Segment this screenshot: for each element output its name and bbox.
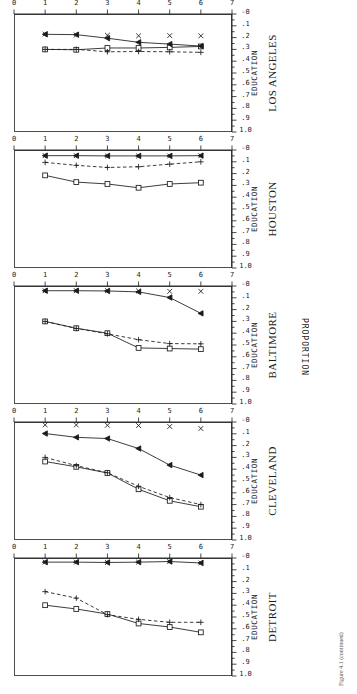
svg-text:.7: .7 — [241, 227, 249, 235]
svg-text:.8: .8 — [241, 238, 249, 246]
panel-baltimore: -0.1.2.3.4.5.6.7.8.91.001234567 EDUCATIO… — [14, 286, 276, 404]
svg-text:.6: .6 — [241, 79, 249, 87]
svg-text:2: 2 — [74, 0, 78, 7]
svg-text:-0: -0 — [241, 416, 249, 424]
panel-title: DETROIT — [266, 558, 278, 676]
svg-text:.3: .3 — [241, 451, 249, 459]
svg-text:3: 3 — [105, 135, 109, 143]
svg-text:.6: .6 — [241, 487, 249, 495]
svg-text:2: 2 — [74, 135, 78, 143]
svg-text:3: 3 — [105, 271, 109, 279]
svg-text:4: 4 — [136, 0, 140, 7]
x-axis-label: EDUCATION — [250, 422, 259, 540]
svg-text:7: 7 — [230, 0, 234, 7]
x-axis-label: EDUCATION — [250, 14, 259, 132]
svg-text:3: 3 — [105, 0, 109, 7]
svg-text:-0: -0 — [241, 144, 249, 152]
svg-text:.6: .6 — [241, 215, 249, 223]
svg-text:7: 7 — [230, 407, 234, 415]
x-axis-label: EDUCATION — [250, 286, 259, 404]
svg-text:.1: .1 — [241, 292, 249, 300]
svg-text:0: 0 — [12, 543, 16, 551]
svg-text:.2: .2 — [241, 304, 249, 312]
x-axis-label: EDUCATION — [250, 558, 259, 676]
svg-text:.6: .6 — [241, 623, 249, 631]
svg-text:0: 0 — [12, 271, 16, 279]
svg-text:4: 4 — [136, 407, 140, 415]
panel-los-angeles: -0.1.2.3.4.5.6.7.8.91.001234567 EDUCATIO… — [14, 14, 276, 132]
panel-title: BALTIMORE — [266, 286, 278, 404]
svg-text:4: 4 — [136, 271, 140, 279]
rotated-figure-wrapper: -0.1.2.3.4.5.6.7.8.91.001234567 EDUCATIO… — [0, 0, 357, 694]
svg-text:.3: .3 — [241, 43, 249, 51]
svg-text:.5: .5 — [241, 339, 249, 347]
svg-text:.4: .4 — [241, 327, 249, 335]
svg-text:.7: .7 — [241, 499, 249, 507]
svg-text:.8: .8 — [241, 646, 249, 654]
panel-houston: -0.1.2.3.4.5.6.7.8.91.001234567 EDUCATIO… — [14, 150, 276, 268]
plot-area: -0.1.2.3.4.5.6.7.8.91.001234567 — [14, 150, 246, 268]
svg-text:.4: .4 — [241, 463, 249, 471]
svg-text:7: 7 — [230, 543, 234, 551]
svg-text:7: 7 — [230, 271, 234, 279]
panel-title: HOUSTON — [266, 150, 278, 268]
svg-text:0: 0 — [12, 135, 16, 143]
svg-text:1: 1 — [43, 271, 47, 279]
svg-text:.8: .8 — [241, 374, 249, 382]
svg-text:.9: .9 — [241, 114, 249, 122]
svg-text:6: 6 — [199, 135, 203, 143]
svg-text:1: 1 — [43, 407, 47, 415]
svg-text:5: 5 — [168, 0, 172, 7]
x-axis-label: EDUCATION — [250, 150, 259, 268]
svg-text:.9: .9 — [241, 658, 249, 666]
panel-cleveland: -0.1.2.3.4.5.6.7.8.91.001234567 EDUCATIO… — [14, 422, 276, 540]
svg-text:0: 0 — [12, 0, 16, 7]
svg-text:6: 6 — [199, 271, 203, 279]
plot-area: -0.1.2.3.4.5.6.7.8.91.001234567 — [14, 286, 246, 404]
svg-text:.4: .4 — [241, 55, 249, 63]
svg-text:0: 0 — [12, 407, 16, 415]
svg-text:6: 6 — [199, 0, 203, 7]
svg-text:.3: .3 — [241, 179, 249, 187]
svg-text:5: 5 — [168, 271, 172, 279]
plot-area: -0.1.2.3.4.5.6.7.8.91.001234567 — [14, 14, 246, 132]
svg-text:.2: .2 — [241, 168, 249, 176]
svg-text:.7: .7 — [241, 363, 249, 371]
svg-text:.9: .9 — [241, 522, 249, 530]
svg-text:.5: .5 — [241, 611, 249, 619]
svg-text:3: 3 — [105, 407, 109, 415]
svg-text:.1: .1 — [241, 564, 249, 572]
y-axis-label: PROPORTION — [300, 0, 309, 694]
svg-text:-0: -0 — [241, 552, 249, 560]
svg-text:4: 4 — [136, 135, 140, 143]
svg-text:3: 3 — [105, 543, 109, 551]
svg-text:.4: .4 — [241, 599, 249, 607]
svg-text:.3: .3 — [241, 587, 249, 595]
svg-text:2: 2 — [74, 271, 78, 279]
panel-detroit: -0.1.2.3.4.5.6.7.8.91.001234567 EDUCATIO… — [14, 558, 276, 676]
panel-title: CLEVELAND — [266, 422, 278, 540]
svg-text:.2: .2 — [241, 32, 249, 40]
svg-text:-0: -0 — [241, 8, 249, 16]
svg-text:.1: .1 — [241, 428, 249, 436]
svg-text:-0: -0 — [241, 280, 249, 288]
plot-area: -0.1.2.3.4.5.6.7.8.91.001234567 — [14, 422, 246, 540]
svg-text:2: 2 — [74, 407, 78, 415]
svg-text:6: 6 — [199, 543, 203, 551]
svg-text:.1: .1 — [241, 20, 249, 28]
svg-text:5: 5 — [168, 543, 172, 551]
svg-text:.8: .8 — [241, 510, 249, 518]
svg-text:7: 7 — [230, 135, 234, 143]
svg-text:.7: .7 — [241, 635, 249, 643]
svg-text:5: 5 — [168, 407, 172, 415]
svg-text:.1: .1 — [241, 156, 249, 164]
svg-text:4: 4 — [136, 543, 140, 551]
svg-text:.3: .3 — [241, 315, 249, 323]
svg-text:.5: .5 — [241, 203, 249, 211]
svg-text:.4: .4 — [241, 191, 249, 199]
svg-text:2: 2 — [74, 543, 78, 551]
svg-text:.9: .9 — [241, 250, 249, 258]
svg-text:.6: .6 — [241, 351, 249, 359]
svg-text:.8: .8 — [241, 102, 249, 110]
svg-text:6: 6 — [199, 407, 203, 415]
